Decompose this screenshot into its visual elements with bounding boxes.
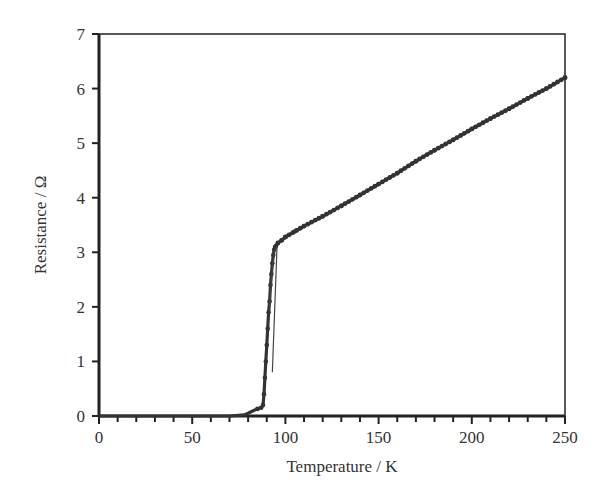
data-point [264, 359, 269, 364]
y-tick-label: 2 [77, 298, 86, 317]
y-tick-label: 3 [77, 243, 86, 262]
data-point [262, 392, 267, 397]
data-point [263, 376, 268, 381]
plot-frame [99, 34, 565, 416]
x-axis-title: Temperature / K [286, 457, 398, 476]
data-point [265, 326, 270, 331]
x-tick-label: 50 [184, 428, 201, 447]
data-point [261, 403, 266, 408]
data-point [279, 238, 284, 243]
data-point [563, 75, 568, 80]
x-tick-label: 100 [273, 428, 299, 447]
y-tick-label: 1 [77, 352, 86, 371]
y-tick-label: 7 [77, 25, 86, 44]
x-tick-label: 150 [366, 428, 392, 447]
x-tick-label: 200 [459, 428, 485, 447]
x-tick-label: 250 [552, 428, 578, 447]
y-tick-label: 4 [77, 189, 86, 208]
x-tick-label: 0 [95, 428, 104, 447]
y-tick-label: 5 [77, 134, 86, 153]
y-tick-label: 6 [77, 80, 86, 99]
data-line [99, 78, 565, 416]
y-tick-label: 0 [77, 407, 86, 426]
y-axis-title: Resistance / Ω [31, 176, 50, 275]
resistance-temperature-chart: 01234567050100150200250Temperature / KRe… [0, 0, 603, 503]
data-point [264, 343, 269, 348]
data-point [266, 310, 271, 315]
